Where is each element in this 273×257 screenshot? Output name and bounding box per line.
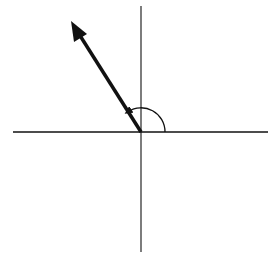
vector-arrowhead-icon <box>71 21 87 42</box>
diagram-canvas: Vector in standard position drawn from t… <box>0 0 273 257</box>
angle-diagram <box>0 0 273 257</box>
vector-arrow <box>79 34 141 132</box>
